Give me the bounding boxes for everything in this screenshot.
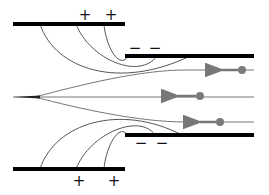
plus-sign: + — [105, 8, 118, 23]
field-lines-top — [40, 24, 190, 73]
electron-trajectories — [13, 70, 254, 122]
plus-sign: + — [108, 174, 121, 189]
minus-sign: − — [129, 41, 142, 56]
electron-center — [178, 92, 204, 100]
minus-sign: − — [135, 136, 148, 151]
field-line — [104, 24, 128, 60]
field-line — [76, 24, 157, 66]
electron-lower — [200, 118, 224, 126]
electron-icon — [238, 66, 246, 74]
electron-icon — [196, 92, 204, 100]
plus-sign: + — [79, 8, 92, 23]
electron-upper — [222, 66, 246, 74]
minus-sign: − — [156, 136, 169, 151]
focal-point — [13, 96, 40, 99]
electrons — [178, 66, 246, 126]
electron-icon — [216, 118, 224, 126]
electron-lens-diagram — [0, 0, 269, 195]
field-line — [104, 132, 127, 169]
plus-sign: + — [73, 174, 86, 189]
field-line — [40, 24, 190, 73]
trajectory-upper — [35, 70, 254, 97]
minus-sign: − — [149, 41, 162, 56]
